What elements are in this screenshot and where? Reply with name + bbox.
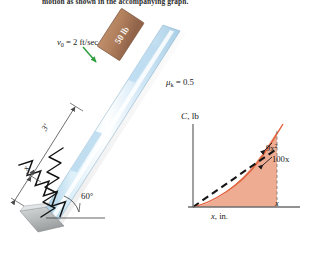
friction-coefficient-label: μk = 0.5 (166, 78, 194, 88)
dimension-x-line (15, 170, 34, 200)
incline-assembly: 50 lb (11, 8, 186, 232)
line-label-100x: 100x (272, 155, 289, 164)
ramp-highlight (50, 30, 174, 220)
graph-x-tick-label: x (275, 200, 279, 208)
mu-value: = 0.5 (174, 77, 194, 87)
velocity-label: v0 = 2 ft/sec (57, 38, 98, 48)
dimension-3ft-tick-top (70, 103, 83, 111)
y-axis-unit: , lb (187, 111, 199, 121)
curve-label-9x2: 9x2 (266, 143, 278, 152)
curve-label-base: 9x (266, 143, 275, 153)
velocity-value: = 2 ft/sec (64, 37, 98, 47)
curve-label-exponent: 2 (275, 142, 278, 149)
graph-y-axis-label: C, lb (181, 112, 199, 121)
graph-x-axis-label: x, in. (211, 212, 228, 221)
physics-figure: motion as shown in the accompanying grap… (0, 0, 313, 256)
x-axis-unit: , in. (215, 211, 228, 221)
velocity-arrow (83, 47, 96, 62)
graph-assembly (188, 124, 300, 207)
incline-angle-label: 60° (81, 192, 93, 201)
dimension-x-tick-bottom (11, 198, 24, 206)
shaded-area-under-curve (193, 131, 277, 207)
block-50lb: 50 lb (97, 8, 144, 60)
dimension-3ft-line (31, 107, 75, 177)
angle-leader (79, 203, 80, 212)
